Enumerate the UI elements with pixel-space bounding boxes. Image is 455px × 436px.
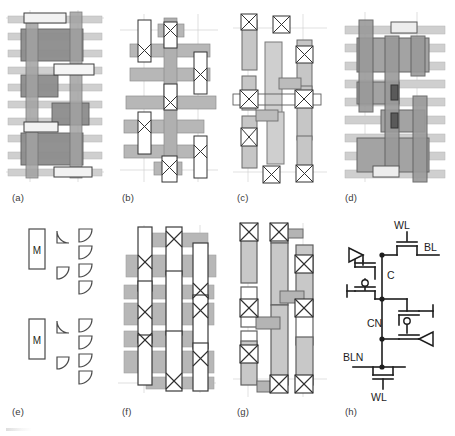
label-wl-bottom: WL [371, 391, 387, 403]
panel-c [225, 0, 337, 190]
label-cn: CN [367, 317, 382, 329]
panel-h: WL BL C CN BLN WL [335, 215, 455, 405]
label-wl-top: WL [394, 219, 410, 231]
panel-f-caption: (f) [122, 406, 132, 417]
panel-d-caption: (d) [345, 192, 357, 203]
panel-g-caption: (g) [237, 406, 249, 417]
panel-b [110, 0, 225, 190]
legend-marker-label-1: M [33, 245, 41, 256]
panel-g [225, 215, 337, 405]
right-output-arrow [419, 332, 433, 346]
legend-marker-label-2: M [33, 335, 41, 346]
panel-e-caption: (e) [12, 406, 24, 417]
panel-b-caption: (b) [122, 192, 134, 203]
panel-f [110, 215, 225, 405]
panel-h-caption: (h) [345, 406, 357, 417]
legend-group-lower: M [29, 319, 92, 384]
page-edge-artifact [6, 428, 32, 431]
panel-a [0, 0, 110, 190]
panel-a-caption: (a) [12, 192, 24, 203]
label-bln: BLN [343, 351, 363, 363]
label-c: C [387, 269, 395, 281]
panel-c-caption: (c) [237, 192, 249, 203]
left-output-arrow [349, 248, 363, 262]
legend-group-upper: M [29, 229, 92, 294]
panel-e: M M [0, 215, 110, 405]
label-bl: BL [424, 241, 437, 253]
figure-root: (a) [0, 0, 455, 436]
panel-d [335, 0, 455, 190]
